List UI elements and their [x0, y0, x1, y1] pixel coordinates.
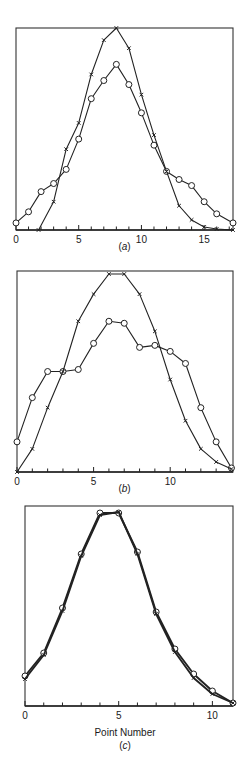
series-line-crosses — [25, 512, 233, 703]
plot-area-c: 0510 — [22, 506, 236, 721]
x-tick-label: 0 — [22, 710, 28, 721]
x-tick-label: 10 — [207, 710, 219, 721]
panel-label-c: (c) — [119, 740, 131, 751]
x-axis-label-c: Point Number — [94, 727, 156, 738]
x-tick-label: 5 — [116, 710, 122, 721]
chart-c-svg: 0510 Point Number (c) — [0, 0, 247, 762]
chart-panel-c: 0510 Point Number (c) — [0, 0, 247, 762]
series-line-circles — [25, 513, 233, 703]
